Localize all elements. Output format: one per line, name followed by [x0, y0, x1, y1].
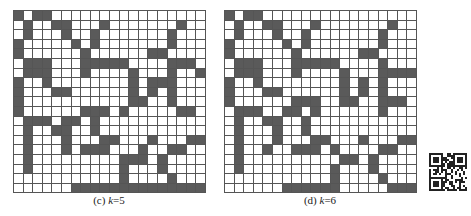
- grid-cell: [397, 164, 407, 174]
- grid-cell: [51, 20, 61, 30]
- grid-cell: [358, 173, 368, 183]
- grid-cell: [176, 39, 186, 49]
- occupancy-grid-c: [13, 10, 206, 193]
- grid-cell: [378, 58, 388, 68]
- grid-cell: [253, 106, 263, 116]
- grid-cell: [358, 183, 368, 193]
- grid-cell: [109, 39, 119, 49]
- grid-cell: [42, 68, 52, 78]
- grid-cell: [23, 125, 33, 135]
- grid-cell: [358, 125, 368, 135]
- grid-cell: [90, 29, 100, 39]
- grid-cell: [358, 48, 368, 58]
- grid-cell: [109, 58, 119, 68]
- grid-cell: [147, 154, 157, 164]
- grid-cell: [320, 48, 330, 58]
- qr-code-icon[interactable]: [429, 153, 467, 191]
- grid-cell: [23, 29, 33, 39]
- grid-cell: [253, 183, 263, 193]
- grid-cell: [224, 106, 234, 116]
- grid-cell: [310, 173, 320, 183]
- grid-cell: [262, 10, 272, 20]
- grid-cell: [138, 77, 148, 87]
- grid-cell: [186, 48, 196, 58]
- grid-cell: [378, 154, 388, 164]
- grid-cell: [368, 125, 378, 135]
- grid-cell: [42, 125, 52, 135]
- grid-cell: [253, 154, 263, 164]
- grid-cell: [387, 48, 397, 58]
- grid-cell: [320, 144, 330, 154]
- grid-cell: [186, 58, 196, 68]
- grid-cell: [339, 58, 349, 68]
- grid-cell: [128, 10, 138, 20]
- grid-cell: [397, 87, 407, 97]
- grid-cell: [128, 183, 138, 193]
- grid-cell: [13, 173, 23, 183]
- grid-cell: [358, 10, 368, 20]
- grid-cell: [243, 20, 253, 30]
- grid-cell: [109, 48, 119, 58]
- grid-cell: [301, 154, 311, 164]
- grid-cell: [243, 144, 253, 154]
- grid-cell: [406, 68, 416, 78]
- grid-cell: [32, 116, 42, 126]
- grid-cell: [195, 39, 205, 49]
- grid-cell: [262, 135, 272, 145]
- grid-cell: [147, 58, 157, 68]
- grid-cell: [330, 29, 340, 39]
- grid-cell: [61, 29, 71, 39]
- grid-cell: [253, 10, 263, 20]
- grid-cell: [310, 77, 320, 87]
- grid-cell: [234, 183, 244, 193]
- grid-cell: [71, 96, 81, 106]
- grid-cell: [195, 173, 205, 183]
- grid-cell: [109, 87, 119, 97]
- grid-cell: [368, 173, 378, 183]
- grid-cell: [406, 154, 416, 164]
- grid-cell: [301, 96, 311, 106]
- grid-panel-d: [224, 10, 417, 193]
- grid-cell: [147, 125, 157, 135]
- grid-cell: [109, 29, 119, 39]
- grid-cell: [330, 39, 340, 49]
- grid-cell: [157, 20, 167, 30]
- grid-cell: [128, 164, 138, 174]
- grid-cell: [282, 48, 292, 58]
- grid-cell: [349, 20, 359, 30]
- grid-cell: [234, 125, 244, 135]
- grid-cell: [310, 135, 320, 145]
- grid-cell: [387, 96, 397, 106]
- grid-cell: [330, 164, 340, 174]
- grid-cell: [339, 164, 349, 174]
- grid-cell: [186, 29, 196, 39]
- grid-cell: [243, 58, 253, 68]
- grid-cell: [51, 183, 61, 193]
- grid-cell: [330, 106, 340, 116]
- grid-cell: [282, 77, 292, 87]
- grid-cell: [358, 116, 368, 126]
- grid-cell: [23, 77, 33, 87]
- grid-cell: [349, 48, 359, 58]
- grid-cell: [176, 48, 186, 58]
- grid-cell: [167, 29, 177, 39]
- grid-cell: [301, 68, 311, 78]
- grid-cell: [272, 125, 282, 135]
- grid-cell: [157, 154, 167, 164]
- grid-cell: [339, 173, 349, 183]
- grid-cell: [61, 48, 71, 58]
- grid-cell: [147, 20, 157, 30]
- grid-cell: [51, 144, 61, 154]
- grid-cell: [71, 87, 81, 97]
- grid-cell: [368, 29, 378, 39]
- grid-cell: [61, 10, 71, 20]
- grid-cell: [358, 135, 368, 145]
- grid-cell: [320, 58, 330, 68]
- grid-cell: [138, 68, 148, 78]
- grid-cell: [243, 10, 253, 20]
- grid-cell: [387, 125, 397, 135]
- grid-cell: [378, 20, 388, 30]
- grid-cell: [109, 116, 119, 126]
- grid-cell: [61, 154, 71, 164]
- grid-cell: [330, 154, 340, 164]
